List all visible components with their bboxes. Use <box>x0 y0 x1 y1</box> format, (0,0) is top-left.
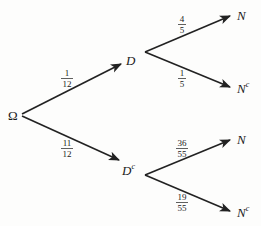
prob-denominator: 55 <box>178 149 188 159</box>
prob-numerator: 36 <box>178 138 188 148</box>
edge-dc-to-n <box>145 140 230 175</box>
node-d-nc: Nc <box>236 80 250 96</box>
prob-numerator: 19 <box>178 192 188 202</box>
edge-dc-to-nc <box>145 175 230 211</box>
node-d-complement: Dc <box>121 162 135 178</box>
prob-dc-n: 36 55 <box>176 138 188 159</box>
probability-tree-diagram: Ω 1 12 11 12 D Dc 4 5 1 5 36 55 <box>0 0 261 226</box>
prob-denominator: 55 <box>178 203 188 213</box>
node-dc-nc: Nc <box>236 204 250 220</box>
prob-d-nc: 1 5 <box>178 68 186 89</box>
prob-omega-d: 1 12 <box>61 68 73 89</box>
prob-denominator: 12 <box>63 79 72 89</box>
prob-numerator: 11 <box>63 138 72 148</box>
edge-d-to-nc <box>145 52 230 87</box>
prob-omega-dc: 11 12 <box>61 138 73 159</box>
prob-numerator: 1 <box>65 68 70 78</box>
edge-d-to-n <box>145 16 230 52</box>
root-node-omega: Ω <box>8 108 18 123</box>
prob-d-n: 4 5 <box>178 14 186 35</box>
prob-denominator: 12 <box>63 149 72 159</box>
prob-denominator: 5 <box>180 79 185 89</box>
prob-denominator: 5 <box>180 25 185 35</box>
prob-numerator: 4 <box>180 14 185 24</box>
prob-dc-nc: 19 55 <box>176 192 188 213</box>
node-d: D <box>125 53 136 68</box>
prob-numerator: 1 <box>180 68 185 78</box>
edge-omega-to-d <box>22 64 121 114</box>
node-d-n: N <box>236 8 247 23</box>
node-dc-n: N <box>236 132 247 147</box>
